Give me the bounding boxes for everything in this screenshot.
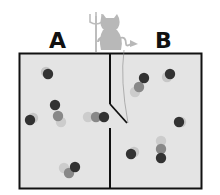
maxwell-demon-diagram: A B [0, 0, 220, 195]
demon-icon [90, 12, 138, 52]
chamber-b-label: B [155, 30, 172, 52]
chamber-a-label: A [49, 30, 66, 52]
diagram-canvas [0, 0, 220, 195]
